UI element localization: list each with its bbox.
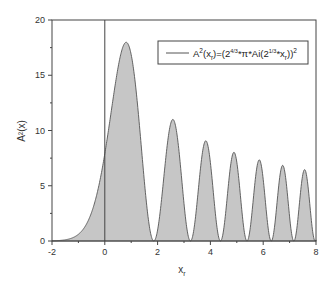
x-axis-ticks: -202468 [48, 241, 319, 257]
x-tick-label: 6 [261, 247, 266, 257]
y-axis-title: A²(x) [16, 120, 27, 142]
legend: A2(xr)=(24/3*π*Ai(21/3*xr))2 [158, 41, 308, 64]
x-tick-label: -2 [48, 247, 56, 257]
y-tick-label: 10 [35, 126, 45, 136]
x-tick-label: 8 [313, 247, 318, 257]
legend-label: A2(xr)=(24/3*π*Ai(21/3*xr))2 [193, 47, 297, 61]
y-tick-label: 15 [35, 70, 45, 80]
series-area-path [52, 42, 316, 241]
y-tick-label: 0 [40, 236, 45, 246]
data-area [52, 42, 316, 241]
x-tick-label: 4 [208, 247, 213, 257]
x-tick-label: 2 [155, 247, 160, 257]
chart: -202468 05101520 xr A²(x) A2(xr)=(24/3*π… [0, 0, 336, 291]
y-tick-label: 20 [35, 15, 45, 25]
y-axis-ticks: 05101520 [35, 15, 52, 246]
y-tick-label: 5 [40, 181, 45, 191]
x-axis-title: xr [178, 264, 186, 277]
x-tick-label: 0 [102, 247, 107, 257]
